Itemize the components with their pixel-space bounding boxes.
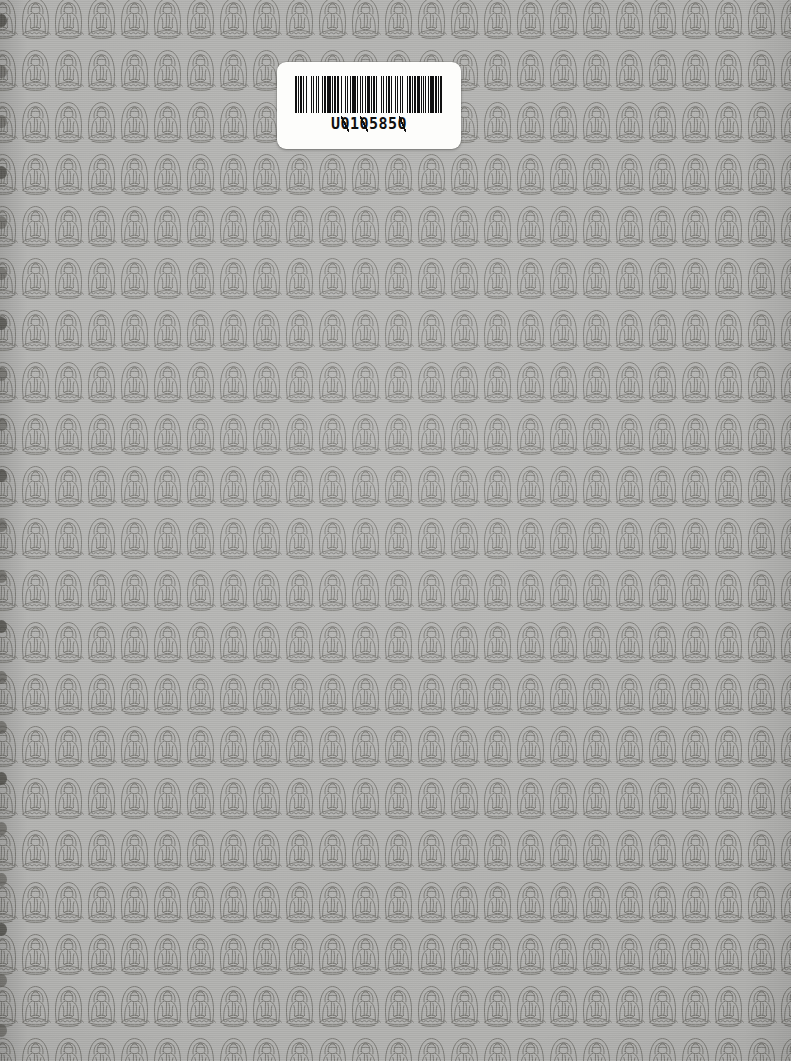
buddha-pattern-background (0, 0, 791, 1061)
scanned-book-cover-page: U0105850 (0, 0, 791, 1061)
barcode-bar (440, 76, 442, 113)
barcode-number-text: U0105850 (277, 115, 461, 133)
barcode-bars (295, 76, 443, 113)
library-barcode-label[interactable]: U0105850 (277, 62, 461, 149)
